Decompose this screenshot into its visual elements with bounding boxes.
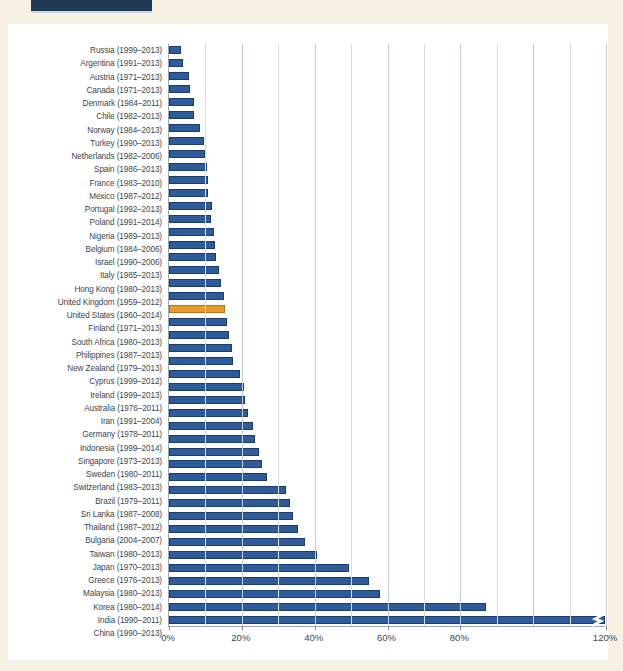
bar[interactable]: [169, 551, 317, 559]
category-label: Russia (1999–2013): [8, 44, 168, 57]
category-label: Spain (1986–2013): [8, 163, 168, 176]
bar[interactable]: [169, 253, 216, 261]
gridline: [388, 44, 389, 626]
gridline: [351, 44, 352, 626]
bar-highlighted[interactable]: [169, 305, 225, 313]
bar[interactable]: [169, 538, 305, 546]
bar[interactable]: [169, 137, 204, 145]
bar[interactable]: [169, 215, 211, 223]
category-label: Indonesia (1999–2014): [8, 442, 168, 455]
gridline: [533, 44, 534, 626]
category-label: Portugal (1992–2013): [8, 203, 168, 216]
bar[interactable]: [169, 72, 189, 80]
category-label: Poland (1991–2014): [8, 216, 168, 229]
gridline: [460, 44, 461, 626]
category-label: Belgium (1984–2006): [8, 243, 168, 256]
bar[interactable]: [169, 564, 349, 572]
bar[interactable]: [169, 85, 190, 93]
bar[interactable]: [169, 577, 369, 585]
category-label: Hong Kong (1980–2013): [8, 283, 168, 296]
bar[interactable]: [169, 331, 229, 339]
bar[interactable]: [169, 590, 380, 598]
category-axis-labels: Russia (1999–2013)Argentina (1991–2013)A…: [8, 44, 168, 627]
category-label: Greece (1976–2013): [8, 574, 168, 587]
category-label: Austria (1971–2013): [8, 71, 168, 84]
bar[interactable]: [169, 228, 214, 236]
category-label: Italy (1985–2013): [8, 269, 168, 282]
bar[interactable]: [169, 409, 248, 417]
header-tab: [31, 0, 152, 13]
bar[interactable]: [169, 486, 286, 494]
bar[interactable]: [169, 603, 486, 611]
bar[interactable]: [169, 422, 253, 430]
category-label: Mexico (1987–2012): [8, 190, 168, 203]
chart-panel: Russia (1999–2013)Argentina (1991–2013)A…: [8, 24, 608, 660]
category-label: Germany (1978–2011): [8, 428, 168, 441]
category-label: Bulgaria (2004–2007): [8, 534, 168, 547]
category-label: South Africa (1980–2013): [8, 336, 168, 349]
bar[interactable]: [169, 383, 244, 391]
bar[interactable]: [169, 448, 259, 456]
bar[interactable]: [169, 473, 267, 481]
category-label: Nigeria (1989–2013): [8, 230, 168, 243]
bar[interactable]: [169, 150, 205, 158]
value-axis-tick-label: 120%: [593, 632, 617, 643]
category-label: United States (1960–2014): [8, 309, 168, 322]
category-label: India (1990–2011): [8, 614, 168, 627]
bar-chart: Russia (1999–2013)Argentina (1991–2013)A…: [8, 24, 608, 660]
value-axis-tick-label: 60%: [377, 632, 396, 643]
axis-tick: [388, 626, 389, 630]
bar[interactable]: [169, 59, 183, 67]
bar[interactable]: [169, 163, 207, 171]
category-label: New Zealand (1979–2013): [8, 362, 168, 375]
bar[interactable]: [169, 460, 262, 468]
gridline: [205, 44, 206, 626]
category-label: Singapore (1973–2013): [8, 455, 168, 468]
gridline: [315, 44, 316, 626]
value-axis-tick-label: 0%: [161, 632, 175, 643]
category-label: Taiwan (1980–2013): [8, 548, 168, 561]
gridline: [424, 44, 425, 626]
category-label: Brazil (1979–2011): [8, 495, 168, 508]
bar[interactable]: [169, 396, 245, 404]
category-label: Israel (1990–2006): [8, 256, 168, 269]
bar[interactable]: [169, 512, 293, 520]
category-label: Netherlands (1982–2006): [8, 150, 168, 163]
category-label: Philippines (1987–2013): [8, 349, 168, 362]
category-label: Ireland (1999–2013): [8, 389, 168, 402]
axis-tick: [169, 626, 170, 630]
bar[interactable]: [169, 266, 219, 274]
bar[interactable]: [169, 318, 227, 326]
bar[interactable]: [169, 279, 221, 287]
category-label: Canada (1971–2013): [8, 84, 168, 97]
bar[interactable]: [169, 292, 224, 300]
category-label: Finland (1971–2013): [8, 322, 168, 335]
category-label: Denmark (1984–2011): [8, 97, 168, 110]
bar[interactable]: [169, 344, 232, 352]
bar[interactable]: [169, 176, 208, 184]
category-label: Argentina (1991–2013): [8, 57, 168, 70]
category-label: Thailand (1987–2012): [8, 521, 168, 534]
category-label: Sri Lanka (1987–2008): [8, 508, 168, 521]
bar[interactable]: [169, 98, 194, 106]
gridline: [242, 44, 243, 626]
category-label: Turkey (1990–2013): [8, 137, 168, 150]
bar[interactable]: [169, 499, 290, 507]
category-label: Malaysia (1980–2013): [8, 587, 168, 600]
category-label: Chile (1982–2013): [8, 110, 168, 123]
category-label: Japan (1970–2013): [8, 561, 168, 574]
category-label: Sweden (1980–2011): [8, 468, 168, 481]
bar[interactable]: [169, 241, 215, 249]
category-label: United Kingdom (1959–2012): [8, 296, 168, 309]
category-label: Iran (1991–2004): [8, 415, 168, 428]
bar[interactable]: [169, 46, 181, 54]
gridline: [570, 44, 571, 626]
axis-break-icon: [590, 613, 606, 627]
bar[interactable]: [169, 357, 233, 365]
gridline: [278, 44, 279, 626]
category-label: China (1990–2013): [8, 627, 168, 640]
bar[interactable]: [169, 189, 208, 197]
bar[interactable]: [169, 124, 200, 132]
axis-tick: [460, 626, 461, 630]
bar[interactable]: [169, 111, 194, 119]
